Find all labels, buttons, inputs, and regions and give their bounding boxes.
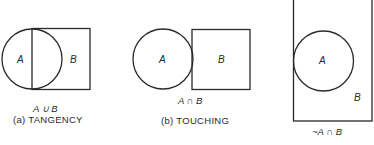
panel-b-touching: A B A ∩ B (b) TOUCHING bbox=[133, 29, 250, 126]
set-b-rectangle bbox=[32, 29, 90, 90]
complement-intersection-expression: ~A ∩ B bbox=[312, 126, 343, 137]
rect-label-b: B bbox=[354, 92, 361, 103]
rect-label-b: B bbox=[218, 54, 225, 65]
caption-tangency: (a) TANGENCY bbox=[13, 114, 83, 125]
rect-label-b: B bbox=[70, 54, 77, 65]
set-relations-diagram: A B A ∪ B (a) TANGENCY A B A ∩ B (b) TOU… bbox=[0, 0, 374, 145]
circle-label-a: A bbox=[16, 54, 24, 65]
circle-label-a: A bbox=[318, 55, 326, 66]
circle-label-a: A bbox=[158, 54, 166, 65]
union-expression: A ∪ B bbox=[32, 103, 58, 114]
panel-a-tangency: A B A ∪ B (a) TANGENCY bbox=[2, 29, 90, 126]
panel-c-complement: A B ~A ∩ B bbox=[294, 0, 373, 137]
intersection-expression: A ∩ B bbox=[177, 95, 203, 106]
caption-touching: (b) TOUCHING bbox=[161, 115, 229, 126]
